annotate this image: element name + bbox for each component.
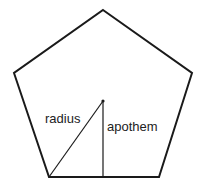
center-point xyxy=(101,99,104,102)
radius-label: radius xyxy=(45,111,81,126)
pentagon-diagram: radius apothem xyxy=(0,0,199,189)
diagram-svg: radius apothem xyxy=(0,0,199,189)
apothem-label: apothem xyxy=(107,119,158,134)
